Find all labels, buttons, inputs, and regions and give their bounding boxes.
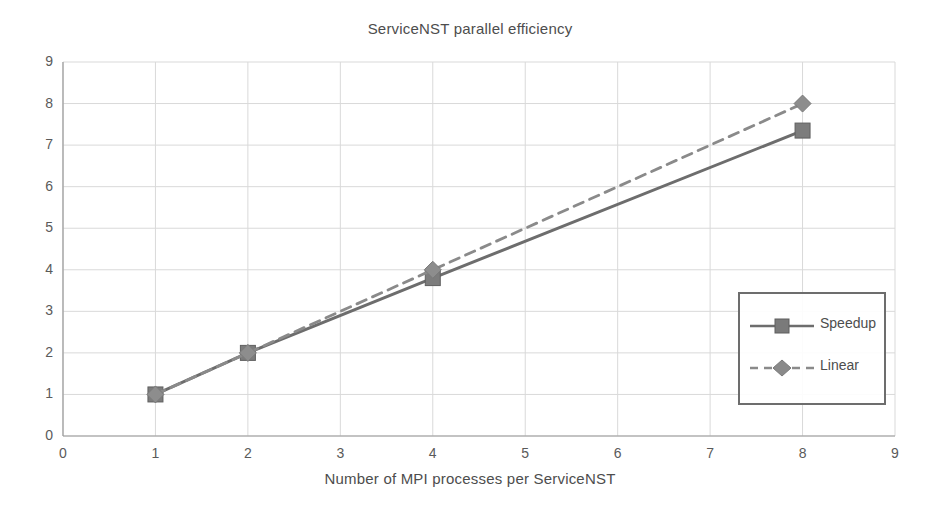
x-tick-label: 9 — [883, 445, 907, 461]
x-tick-label: 3 — [328, 445, 352, 461]
x-tick-label: 1 — [143, 445, 167, 461]
x-tick-label: 0 — [51, 445, 75, 461]
y-tick-label: 0 — [31, 427, 53, 443]
legend: Speedup Linear — [738, 292, 886, 405]
legend-label-speedup: Speedup — [820, 315, 876, 331]
y-tick-label: 9 — [31, 53, 53, 69]
y-tick-label: 7 — [31, 136, 53, 152]
y-tick-label: 4 — [31, 261, 53, 277]
y-tick-label: 2 — [31, 344, 53, 360]
x-axis-title: Number of MPI processes per ServiceNST — [0, 470, 940, 487]
y-tick-label: 3 — [31, 302, 53, 318]
legend-label-linear: Linear — [820, 357, 859, 373]
chart-container: ServiceNST parallel efficiency 012345678… — [0, 0, 940, 509]
x-tick-label: 6 — [606, 445, 630, 461]
data-point-marker-diamond — [794, 95, 811, 112]
y-tick-label: 8 — [31, 95, 53, 111]
y-tick-label: 1 — [31, 385, 53, 401]
x-tick-label: 4 — [421, 445, 445, 461]
data-point-marker-square — [795, 123, 810, 138]
y-tick-label: 6 — [31, 178, 53, 194]
plot-area — [0, 0, 940, 509]
y-tick-label: 5 — [31, 219, 53, 235]
x-tick-label: 7 — [698, 445, 722, 461]
x-tick-label: 2 — [236, 445, 260, 461]
legend-swatch-linear — [748, 356, 816, 380]
legend-item-linear: Linear — [748, 356, 880, 380]
x-tick-label: 5 — [513, 445, 537, 461]
x-tick-label: 8 — [791, 445, 815, 461]
legend-swatch-speedup — [748, 314, 816, 338]
legend-item-speedup: Speedup — [748, 314, 880, 338]
series-layer — [147, 95, 811, 403]
